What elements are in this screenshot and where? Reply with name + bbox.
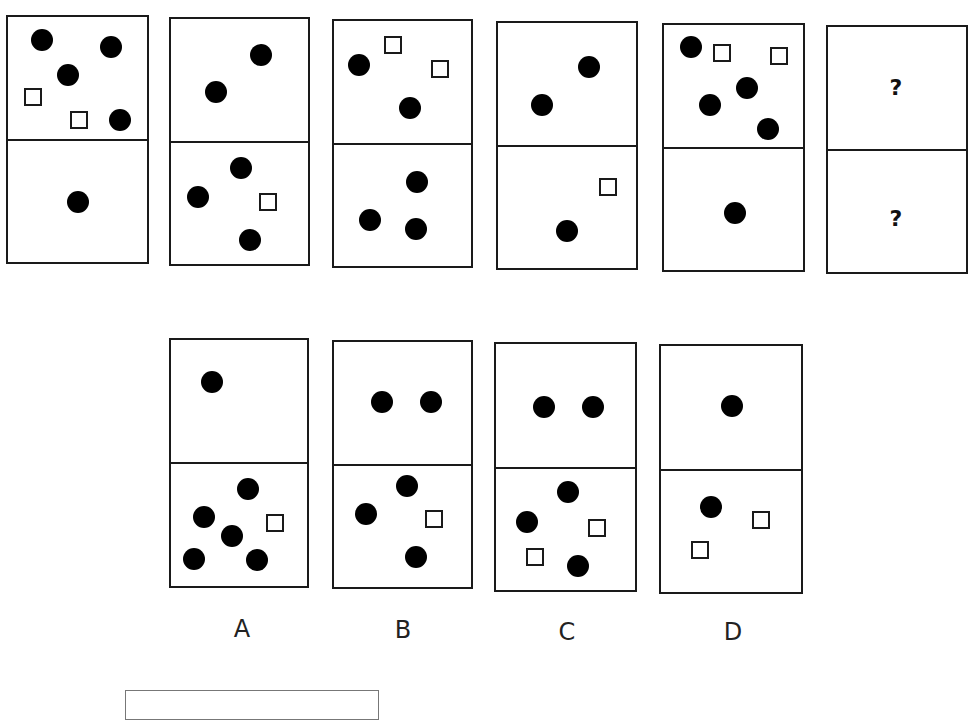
circle-shape bbox=[724, 202, 746, 224]
circle-shape bbox=[399, 97, 421, 119]
domino-divider bbox=[496, 467, 635, 469]
square-shape bbox=[266, 514, 284, 532]
circle-shape bbox=[57, 64, 79, 86]
answer-box[interactable] bbox=[125, 690, 379, 720]
circle-shape bbox=[757, 118, 779, 140]
circle-shape bbox=[516, 511, 538, 533]
circle-shape bbox=[201, 371, 223, 393]
circle-shape bbox=[405, 546, 427, 568]
square-shape bbox=[588, 519, 606, 537]
circle-shape bbox=[250, 44, 272, 66]
option-d-label[interactable]: D bbox=[724, 618, 742, 646]
circle-shape bbox=[680, 36, 702, 58]
circle-shape bbox=[348, 54, 370, 76]
circle-shape bbox=[359, 209, 381, 231]
square-shape bbox=[770, 47, 788, 65]
circle-shape bbox=[205, 81, 227, 103]
domino-divider bbox=[8, 139, 147, 141]
circle-shape bbox=[721, 395, 743, 417]
option-c-label[interactable]: C bbox=[559, 618, 576, 646]
circle-shape bbox=[736, 77, 758, 99]
circle-shape bbox=[420, 391, 442, 413]
circle-shape bbox=[567, 555, 589, 577]
circle-shape bbox=[533, 396, 555, 418]
square-shape bbox=[24, 88, 42, 106]
square-shape bbox=[70, 111, 88, 129]
circle-shape bbox=[355, 503, 377, 525]
domino-divider bbox=[661, 469, 801, 471]
domino-divider bbox=[828, 149, 966, 151]
circle-shape bbox=[246, 549, 268, 571]
circle-shape bbox=[100, 36, 122, 58]
circle-shape bbox=[230, 157, 252, 179]
circle-shape bbox=[405, 218, 427, 240]
domino-divider bbox=[334, 464, 471, 466]
domino-1 bbox=[6, 15, 149, 264]
circle-shape bbox=[700, 496, 722, 518]
circle-shape bbox=[557, 481, 579, 503]
circle-shape bbox=[578, 56, 600, 78]
square-shape bbox=[752, 511, 770, 529]
square-shape bbox=[425, 510, 443, 528]
domino-divider bbox=[171, 141, 308, 143]
domino-divider bbox=[498, 145, 636, 147]
circle-shape bbox=[556, 220, 578, 242]
question-mark-top: ? bbox=[890, 75, 903, 100]
circle-shape bbox=[187, 186, 209, 208]
domino-divider bbox=[171, 462, 307, 464]
square-shape bbox=[431, 60, 449, 78]
circle-shape bbox=[237, 478, 259, 500]
circle-shape bbox=[582, 396, 604, 418]
circle-shape bbox=[371, 391, 393, 413]
option-a-label[interactable]: A bbox=[234, 615, 250, 643]
circle-shape bbox=[396, 475, 418, 497]
option-b-label[interactable]: B bbox=[395, 616, 411, 644]
square-shape bbox=[691, 541, 709, 559]
circle-shape bbox=[67, 191, 89, 213]
option-d-domino[interactable] bbox=[659, 344, 803, 594]
circle-shape bbox=[239, 229, 261, 251]
option-b-domino[interactable] bbox=[332, 340, 473, 589]
circle-shape bbox=[193, 506, 215, 528]
domino-divider bbox=[664, 147, 803, 149]
domino-divider bbox=[334, 143, 471, 145]
domino-unknown bbox=[826, 25, 968, 274]
domino-2 bbox=[169, 17, 310, 266]
circle-shape bbox=[699, 94, 721, 116]
circle-shape bbox=[31, 29, 53, 51]
circle-shape bbox=[406, 171, 428, 193]
circle-shape bbox=[109, 109, 131, 131]
square-shape bbox=[599, 178, 617, 196]
circle-shape bbox=[221, 525, 243, 547]
square-shape bbox=[526, 548, 544, 566]
circle-shape bbox=[531, 94, 553, 116]
circle-shape bbox=[183, 548, 205, 570]
square-shape bbox=[713, 44, 731, 62]
question-mark-bottom: ? bbox=[890, 206, 903, 231]
square-shape bbox=[259, 193, 277, 211]
option-c-domino[interactable] bbox=[494, 342, 637, 592]
square-shape bbox=[384, 36, 402, 54]
